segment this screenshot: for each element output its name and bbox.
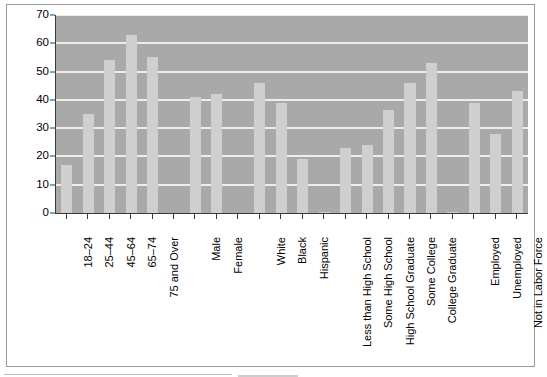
x-tick-slot <box>141 214 162 219</box>
x-label-slot: Unemployed <box>506 237 527 357</box>
x-axis-tick-mark <box>237 214 238 219</box>
x-axis-tick-label: Female <box>232 237 243 274</box>
x-label-slot <box>334 237 355 357</box>
x-tick-slot <box>55 214 76 219</box>
x-axis-tick-label: Employed <box>490 237 501 286</box>
x-label-slot: 65–74 <box>141 237 162 357</box>
x-tick-slot <box>248 214 269 219</box>
x-axis-tick-mark <box>173 214 174 219</box>
bar <box>383 110 394 213</box>
x-label-slot: Male <box>206 237 227 357</box>
x-tick-slot <box>312 214 333 219</box>
bar-slot <box>292 15 313 213</box>
x-axis-tick-label: Black <box>297 237 308 264</box>
bar <box>490 134 501 213</box>
bar <box>340 148 351 213</box>
x-tick-slot <box>506 214 527 219</box>
x-axis-tick-mark <box>452 214 453 219</box>
bar <box>83 114 94 213</box>
x-axis-tick-mark <box>280 214 281 219</box>
bar <box>404 83 415 213</box>
bar-slot <box>206 15 227 213</box>
x-tick-slot <box>270 214 291 219</box>
x-tick-slot <box>205 214 226 219</box>
x-label-slot: Employed <box>485 237 506 357</box>
x-axis-tick-label: White <box>275 237 286 265</box>
bar-series <box>56 15 528 213</box>
x-axis-tick-mark <box>194 214 195 219</box>
x-tick-slot <box>463 214 484 219</box>
x-axis-tick-mark <box>430 214 431 219</box>
x-axis-tick-label: Some High School <box>383 237 394 328</box>
x-axis-tick-mark <box>109 214 110 219</box>
x-label-slot: Some High School <box>377 237 398 357</box>
bar-slot <box>228 15 249 213</box>
x-axis-tick-mark <box>495 214 496 219</box>
x-label-slot: Less than High School <box>356 237 377 357</box>
bar <box>147 57 158 213</box>
x-label-slot: Black <box>292 237 313 357</box>
x-tick-slot <box>119 214 140 219</box>
x-label-slot <box>184 237 205 357</box>
y-axis-tick-label: 0 <box>43 207 49 219</box>
y-axis-tick-label: 40 <box>36 94 49 106</box>
x-axis-ticks <box>55 214 527 219</box>
bar <box>211 94 222 213</box>
bar <box>469 103 480 213</box>
x-label-slot: White <box>270 237 291 357</box>
bar <box>254 83 265 213</box>
y-axis-tick-label: 10 <box>36 179 49 191</box>
x-tick-slot <box>355 214 376 219</box>
plot-wrapper: 010203040506070 18–2425–4445–6465–7475 a… <box>29 15 527 223</box>
x-axis-tick-label: Hispanic <box>318 237 329 279</box>
bar <box>276 103 287 213</box>
bar-slot <box>421 15 442 213</box>
x-axis-tick-mark <box>152 214 153 219</box>
bar-slot <box>442 15 463 213</box>
x-label-slot: College Graduate <box>442 237 463 357</box>
x-axis-tick-label: College Graduate <box>447 237 458 323</box>
bar-slot <box>142 15 163 213</box>
x-axis-tick-mark <box>388 214 389 219</box>
bar-spacer <box>447 212 458 213</box>
x-tick-slot <box>98 214 119 219</box>
bar-slot <box>163 15 184 213</box>
x-axis-tick-mark <box>87 214 88 219</box>
x-label-slot: 18–24 <box>77 237 98 357</box>
x-tick-slot <box>334 214 355 219</box>
x-axis-tick-mark <box>302 214 303 219</box>
bar <box>61 165 72 213</box>
x-axis-tick-label: 18–24 <box>82 237 93 268</box>
bar-slot <box>313 15 334 213</box>
bar-spacer <box>319 212 330 213</box>
y-axis-tick-label: 30 <box>36 122 49 134</box>
x-axis-tick-mark <box>130 214 131 219</box>
bar-slot <box>56 15 77 213</box>
x-axis-tick-mark <box>366 214 367 219</box>
x-label-slot: Hispanic <box>313 237 334 357</box>
bar <box>426 63 437 213</box>
x-label-slot: Some College <box>420 237 441 357</box>
x-label-slot: High School Graduate <box>399 237 420 357</box>
bar <box>190 97 201 213</box>
x-tick-slot <box>484 214 505 219</box>
x-label-slot: 75 and Over <box>163 237 184 357</box>
bar-slot <box>249 15 270 213</box>
x-axis-tick-mark <box>345 214 346 219</box>
x-axis-tick-mark <box>409 214 410 219</box>
x-label-slot: 25–44 <box>98 237 119 357</box>
bar-slot <box>399 15 420 213</box>
x-tick-slot <box>162 214 183 219</box>
bar-slot <box>464 15 485 213</box>
x-axis-labels: 18–2425–4445–6465–7475 and OverMaleFemal… <box>77 237 547 357</box>
x-axis-tick-label: 25–44 <box>104 237 115 268</box>
bar-slot <box>507 15 528 213</box>
y-axis-tick-label: 60 <box>36 38 49 50</box>
bar <box>362 145 373 213</box>
x-axis-tick-label: Some College <box>425 237 436 306</box>
x-axis-tick-label: Male <box>211 237 222 261</box>
x-axis-tick-label: 45–64 <box>125 237 136 268</box>
x-axis-tick-label: Less than High School <box>361 237 372 347</box>
bar-slot <box>120 15 141 213</box>
chart-frame: 010203040506070 18–2425–4445–6465–7475 a… <box>6 4 535 367</box>
